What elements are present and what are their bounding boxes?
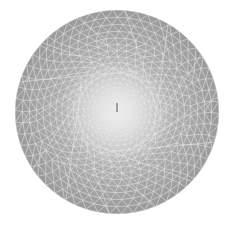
mesh-disc-image: Triangulated mesh disc with gray cells a… — [0, 0, 230, 231]
center-marker — [116, 103, 118, 112]
triangulated-mesh — [0, 0, 230, 231]
